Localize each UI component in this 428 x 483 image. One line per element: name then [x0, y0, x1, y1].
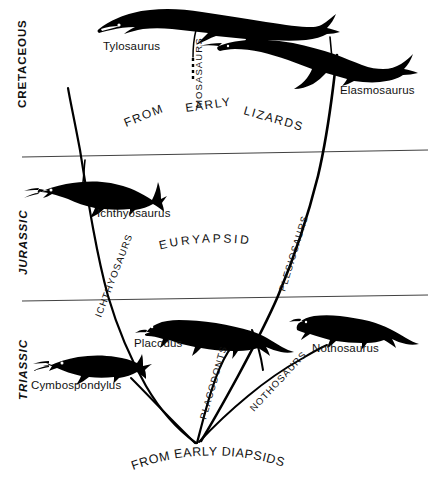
era-label-cretaceous: CRETACEOUS: [16, 19, 28, 108]
species-label-elasmosaurus: Elasmosaurus: [340, 84, 415, 96]
branch-label-mosasaurs: MOSASAURS: [193, 37, 204, 108]
evolution-chart: CRETACEOUS JURASSIC TRIASSIC: [0, 0, 428, 483]
era-label-triassic: TRIASSIC: [17, 339, 29, 400]
species-label-ichthyosaurus: Ichthyosaurus: [97, 207, 171, 219]
species-label-cymbospondylus: Cymbospondylus: [31, 379, 121, 391]
species-label-placodus: Placodus: [134, 337, 183, 349]
species-label-tylosaurus: Tylosaurus: [103, 40, 160, 52]
species-label-nothosaurus: Nothosaurus: [312, 342, 379, 354]
era-label-jurassic: JURASSIC: [17, 210, 29, 275]
